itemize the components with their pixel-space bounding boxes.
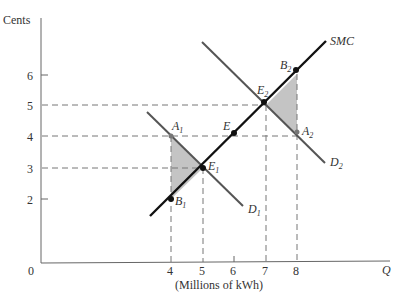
x-tick-label-8: 8 xyxy=(293,264,299,278)
y-axis-title: Cents xyxy=(3,13,31,27)
x-axis-title: (Millions of kWh) xyxy=(175,278,263,292)
label-e1: E1 xyxy=(207,159,219,175)
origin-label: 0 xyxy=(28,264,34,278)
y-ticks xyxy=(41,75,48,199)
label-b2: B2 xyxy=(280,58,291,74)
x-tick-label-5: 5 xyxy=(199,264,205,278)
x-tick-label-6: 6 xyxy=(230,264,236,278)
label-a1: A1 xyxy=(171,119,183,135)
label-d2: D2 xyxy=(329,155,343,171)
label-e: E xyxy=(222,119,231,133)
y-tick-label-3: 3 xyxy=(27,162,33,176)
chart: A1 B1 E1 E E2 B2 A2 D1 D2 SMC Cents (Mil… xyxy=(0,0,403,301)
point-e xyxy=(231,130,237,136)
point-a1 xyxy=(169,134,174,139)
point-b2 xyxy=(293,67,299,73)
label-a2: A2 xyxy=(301,124,313,140)
label-b1: B1 xyxy=(175,194,186,210)
point-b1 xyxy=(168,196,174,202)
point-a2 xyxy=(295,130,300,135)
point-e1 xyxy=(200,165,206,171)
y-tick-label-4: 4 xyxy=(27,130,33,144)
y-tick-label-2: 2 xyxy=(27,193,33,207)
shaded-triangle-right xyxy=(266,74,297,136)
y-tick-label-5: 5 xyxy=(27,99,33,113)
point-e2 xyxy=(261,99,267,105)
x-axis xyxy=(41,261,390,263)
x-axis-symbol: Q xyxy=(382,263,391,277)
label-d1: D1 xyxy=(247,202,261,218)
label-e2: E2 xyxy=(256,83,268,99)
x-tick-label-4: 4 xyxy=(167,264,173,278)
label-smc: SMC xyxy=(330,34,355,48)
x-tick-label-7: 7 xyxy=(262,264,268,278)
y-tick-label-6: 6 xyxy=(27,69,33,83)
dashed-guides xyxy=(42,74,297,262)
